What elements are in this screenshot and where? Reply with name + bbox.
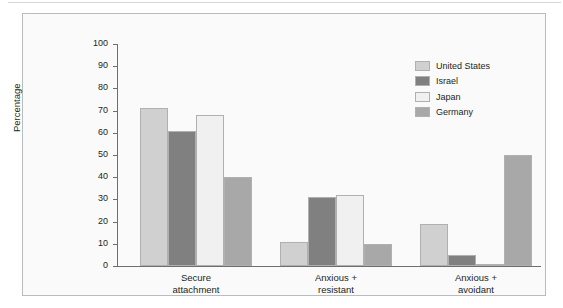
legend-item[interactable]: United States — [415, 58, 545, 74]
legend-item[interactable]: Germany — [415, 105, 545, 121]
legend-item-label: United States — [436, 61, 490, 71]
y-axis-tick-label: 40 — [98, 171, 108, 181]
bar[interactable] — [476, 264, 504, 266]
bar[interactable] — [420, 224, 448, 266]
legend-item-label: Japan — [436, 92, 461, 102]
bar[interactable] — [504, 155, 532, 266]
bar[interactable] — [336, 195, 364, 266]
top-divider-rule — [8, 2, 561, 3]
legend-item-label: Israel — [436, 76, 458, 86]
bar[interactable] — [448, 255, 476, 266]
chart-legend: United StatesIsraelJapanGermany — [415, 58, 545, 120]
y-axis-tick-label: 0 — [103, 260, 108, 270]
y-axis-tick-mark — [113, 266, 118, 267]
legend-item[interactable]: Israel — [415, 74, 545, 90]
bar[interactable] — [308, 197, 336, 266]
bar[interactable] — [364, 244, 392, 266]
x-axis-line — [117, 266, 541, 267]
x-axis-category-label-line: Secure — [116, 272, 276, 284]
figure: Percentage 0102030405060708090100 Secure… — [0, 0, 563, 308]
legend-item-label: Germany — [436, 107, 473, 117]
legend-color-swatch — [415, 92, 430, 102]
bar-group: Secureattachment — [140, 44, 252, 266]
chart-panel: Percentage 0102030405060708090100 Secure… — [22, 13, 546, 296]
x-axis-category-label-line: avoidant — [396, 284, 556, 296]
y-axis-tick-label: 60 — [98, 127, 108, 137]
y-axis-tick-label: 10 — [98, 238, 108, 248]
legend-item[interactable]: Japan — [415, 89, 545, 105]
y-axis-tick-label: 90 — [98, 60, 108, 70]
bar[interactable] — [280, 242, 308, 266]
legend-color-swatch — [415, 107, 430, 117]
bar[interactable] — [224, 177, 252, 266]
x-axis-category-label-line: attachment — [116, 284, 276, 296]
x-axis-category-label: Anxious +resistant — [256, 272, 416, 295]
x-axis-category-label-line: Anxious + — [256, 272, 416, 284]
bar[interactable] — [196, 115, 224, 266]
legend-color-swatch — [415, 61, 430, 71]
x-axis-category-label-line: resistant — [256, 284, 416, 296]
x-axis-category-label: Secureattachment — [116, 272, 276, 295]
x-axis-category-label-line: Anxious + — [396, 272, 556, 284]
legend-color-swatch — [415, 76, 430, 86]
y-axis-tick-label: 30 — [98, 193, 108, 203]
y-axis-tick-label: 50 — [98, 149, 108, 159]
bar[interactable] — [140, 108, 168, 266]
y-axis-tick-label: 100 — [93, 38, 108, 48]
y-axis-title: Percentage — [11, 83, 22, 132]
y-axis-tick-label: 70 — [98, 105, 108, 115]
y-axis-tick-label: 80 — [98, 82, 108, 92]
x-axis-category-label: Anxious +avoidant — [396, 272, 556, 295]
bar-group: Anxious +resistant — [280, 44, 392, 266]
bar[interactable] — [168, 131, 196, 266]
y-axis-tick-label: 20 — [98, 216, 108, 226]
